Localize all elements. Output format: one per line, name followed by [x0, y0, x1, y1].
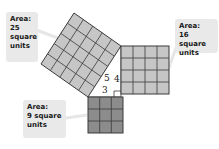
hypotenuse-label: 5 — [104, 74, 110, 83]
horizontal-leg-label: 3 — [102, 86, 108, 95]
callout-25-line3: square — [10, 33, 34, 42]
area-25-callout: Area: 25 square units — [6, 12, 38, 62]
callout-25-line1: Area: — [10, 15, 34, 24]
callout-16-line3: units — [179, 49, 214, 58]
connector-9 — [66, 115, 87, 118]
area-9-callout: Area: 9 square units — [23, 100, 66, 138]
callout-25-line2: 25 — [10, 24, 34, 33]
callout-9-line1: Area: — [27, 103, 62, 112]
callout-9-line3: units — [27, 121, 62, 130]
square-16-units — [121, 46, 169, 94]
area-16-callout: Area: 16 square units — [175, 19, 218, 53]
callout-25-line4: units — [10, 42, 34, 51]
connector-25 — [36, 30, 58, 38]
vertical-leg-label: 4 — [114, 75, 120, 84]
callout-16-line1: Area: — [179, 22, 214, 31]
callout-9-line2: 9 square — [27, 112, 62, 121]
square-9-units — [88, 97, 123, 133]
callout-16-line2: 16 square — [179, 31, 214, 49]
